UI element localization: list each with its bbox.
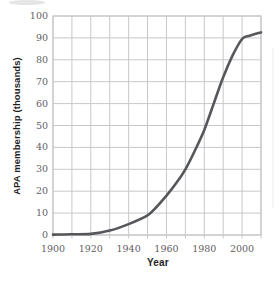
y-tick-label: 40 <box>36 141 48 152</box>
y-tick-label: 100 <box>30 10 48 21</box>
x-tick-label: 1900 <box>41 243 65 254</box>
y-tick-label: 90 <box>36 32 48 43</box>
membership-curve <box>53 32 261 234</box>
y-tick-label: 60 <box>36 98 48 109</box>
x-tick-label: 1920 <box>79 243 103 254</box>
membership-line-chart: 0102030405060708090100190019201940196019… <box>0 0 280 281</box>
y-tick-label: 50 <box>36 120 48 131</box>
x-axis-title: Year <box>147 257 169 268</box>
y-axis-title: APA membership (thousands) <box>11 57 22 195</box>
y-tick-label: 70 <box>36 76 48 87</box>
x-tick-label: 2000 <box>230 243 254 254</box>
x-tick-label: 1980 <box>192 243 216 254</box>
y-tick-label: 0 <box>42 229 48 240</box>
y-tick-label: 80 <box>36 54 48 65</box>
y-tick-label: 20 <box>36 185 48 196</box>
x-tick-label: 1940 <box>117 243 141 254</box>
apa-membership-figure: 0102030405060708090100190019201940196019… <box>0 0 280 281</box>
y-tick-label: 30 <box>36 163 48 174</box>
x-tick-label: 1960 <box>154 243 178 254</box>
y-tick-label: 10 <box>36 207 48 218</box>
